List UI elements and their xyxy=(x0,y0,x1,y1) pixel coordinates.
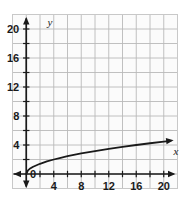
x-axis-title: x xyxy=(173,145,179,157)
x-tick-label: 12 xyxy=(103,180,115,192)
y-tick-label: 16 xyxy=(7,52,19,64)
y-tick-label: 8 xyxy=(13,110,19,122)
y-tick-label: 4 xyxy=(13,139,20,151)
y-tick-label: 20 xyxy=(7,23,19,35)
x-tick-label: 20 xyxy=(158,180,170,192)
coordinate-plane-svg: 48121620 48121620 0 x y xyxy=(0,0,191,204)
y-axis-title: y xyxy=(47,16,53,28)
x-tick-label: 4 xyxy=(51,180,58,192)
graph-figure: 48121620 48121620 0 x y xyxy=(0,0,191,204)
y-tick-label: 12 xyxy=(7,81,19,93)
origin-label: 0 xyxy=(30,168,36,180)
x-tick-label: 16 xyxy=(130,180,142,192)
x-tick-label: 8 xyxy=(78,180,84,192)
